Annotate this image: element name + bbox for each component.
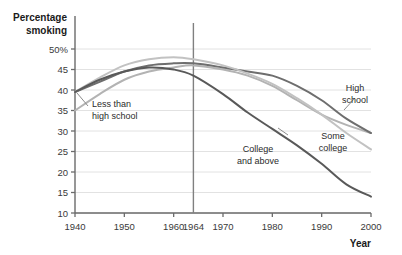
y-axis-title: Percentagesmoking [13,12,67,36]
annotation-college-and-above-line2: and above [237,156,279,166]
leader-line-less-than-high-school [77,93,88,106]
y-axis-title-line1: Percentage [13,12,67,23]
x-tick-label-1960: 1960 [163,221,184,232]
x-tick-label-1970: 1970 [212,221,233,232]
y-tick-label-30: 30 [57,126,68,137]
x-tick-label-1950: 1950 [114,221,135,232]
x-tick-label-2000: 2000 [360,221,381,232]
y-tick-label-40: 40 [57,85,68,96]
x-tick-label-1980: 1980 [262,221,283,232]
annotations: Less thanhigh schoolCollegeand aboveHigh… [77,83,368,166]
y-axis-ticks: 101520253035404550% [49,44,75,219]
smoking-by-education-line-chart: 101520253035404550%194019501960196419701… [0,0,402,255]
chart-container: 101520253035404550%194019501960196419701… [0,0,402,255]
y-tick-label-35: 35 [57,105,68,116]
annotation-less-than-high-school-line1: Less than [92,99,131,109]
annotation-some-college-line2: college [319,143,348,153]
y-tick-label-15: 15 [57,187,68,198]
x-tick-label-1940: 1940 [64,221,85,232]
x-axis-title: Year [350,238,371,249]
y-tick-label-10: 10 [57,208,68,219]
annotation-high-school-line1: High [346,83,365,93]
y-axis-title-line2: smoking [26,25,67,36]
x-tick-label-1990: 1990 [311,221,332,232]
annotation-college-and-above-line1: College [243,144,274,154]
y-tick-label-25: 25 [57,146,68,157]
y-tick-label-45: 45 [57,64,68,75]
y-tick-label-50: 50% [49,44,69,55]
annotation-some-college-line1: Some [321,131,345,141]
y-tick-label-20: 20 [57,167,68,178]
annotation-less-than-high-school-line2: high school [92,111,138,121]
x-tick-label-1964: 1964 [183,221,204,232]
series-group [75,57,371,196]
x-axis-ticks: 19401950196019641970198019902000 [64,213,381,232]
annotation-high-school-line2: school [342,95,368,105]
